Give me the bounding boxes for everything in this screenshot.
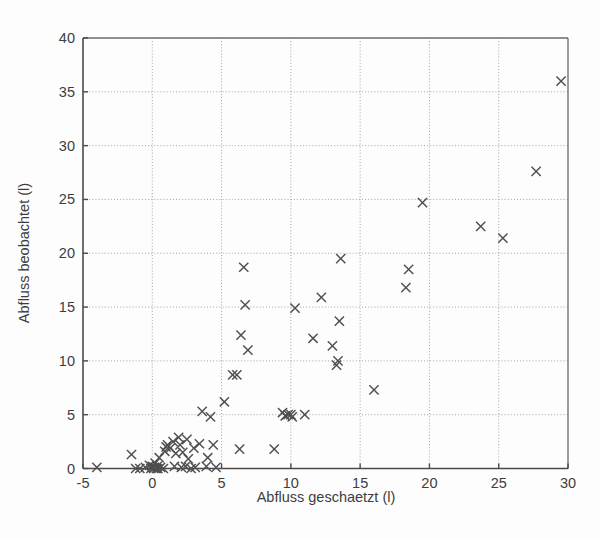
y-tick-label: 35 xyxy=(59,84,75,100)
data-point-marker xyxy=(300,410,309,419)
data-point-marker xyxy=(235,445,244,454)
data-point-marker xyxy=(556,76,565,85)
data-point-marker xyxy=(369,385,378,394)
data-points xyxy=(92,76,565,473)
data-point-marker xyxy=(243,346,252,355)
data-point-marker xyxy=(498,234,507,243)
y-tick-label: 30 xyxy=(59,138,75,154)
data-point-marker xyxy=(270,445,279,454)
data-point-marker xyxy=(308,334,317,343)
data-point-marker xyxy=(532,167,541,176)
y-tick-label: 10 xyxy=(59,353,75,369)
data-point-marker xyxy=(290,304,299,313)
x-tick-label: 5 xyxy=(218,475,226,491)
data-point-marker xyxy=(189,443,198,452)
data-point-marker xyxy=(317,293,326,302)
data-point-marker xyxy=(203,453,212,462)
data-point-marker xyxy=(404,265,413,274)
y-axis-title: Abfluss beobachtet (l) xyxy=(16,183,32,323)
y-tick-label: 0 xyxy=(67,461,75,477)
data-point-marker xyxy=(335,316,344,325)
data-point-marker xyxy=(239,263,248,272)
data-point-marker xyxy=(195,439,204,448)
data-point-marker xyxy=(220,397,229,406)
x-tick-label: 30 xyxy=(560,475,576,491)
y-tick-label: 40 xyxy=(59,30,75,46)
y-tick-label: 25 xyxy=(59,191,75,207)
plot-canvas: -5051015202530 0510152025303540 Abfluss … xyxy=(0,0,601,538)
y-tick-label: 5 xyxy=(67,407,75,423)
data-point-marker xyxy=(328,341,337,350)
data-point-marker xyxy=(236,330,245,339)
data-point-marker xyxy=(241,300,250,309)
data-point-marker xyxy=(184,454,193,463)
y-tick-label: 20 xyxy=(59,245,75,261)
x-tick-label: 25 xyxy=(491,475,507,491)
data-point-marker xyxy=(182,435,191,444)
data-point-marker xyxy=(336,254,345,263)
data-point-marker xyxy=(202,462,211,471)
data-point-marker xyxy=(209,440,218,449)
caption-strip xyxy=(0,522,601,538)
data-point-marker xyxy=(418,198,427,207)
data-point-marker xyxy=(92,463,101,472)
data-point-marker xyxy=(206,412,215,421)
data-point-marker xyxy=(401,283,410,292)
gridlines xyxy=(83,38,568,469)
data-point-marker xyxy=(211,463,220,472)
scatter-plot-figure: -5051015202530 0510152025303540 Abfluss … xyxy=(0,0,601,538)
data-point-marker xyxy=(198,407,207,416)
x-axis-title: Abfluss geschaetzt (l) xyxy=(257,489,396,505)
data-point-marker xyxy=(127,450,136,459)
x-tick-label: -5 xyxy=(77,475,90,491)
data-point-marker xyxy=(476,222,485,231)
y-axis-tick-labels: 0510152025303540 xyxy=(59,30,75,477)
y-tick-label: 15 xyxy=(59,299,75,315)
x-tick-label: 0 xyxy=(148,475,156,491)
x-tick-label: 20 xyxy=(421,475,437,491)
